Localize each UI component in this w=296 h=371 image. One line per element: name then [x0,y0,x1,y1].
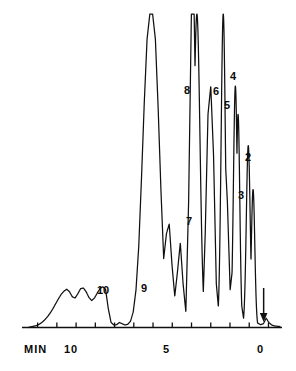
peak-label-2: 2 [245,152,251,163]
x-axis-tick-label-10: 10 [64,344,78,355]
peak-label-9: 9 [141,283,147,294]
injection-arrow-icon [260,288,268,322]
peak-label-5: 5 [224,100,230,111]
detector-signal-trace [28,14,280,328]
peak-label-3: 3 [238,190,244,201]
x-axis-tick-label-0: 0 [257,344,264,355]
peak-label-4: 4 [230,71,236,82]
peak-label-10: 10 [97,285,109,296]
chromatogram-plot-area [0,0,296,371]
peak-label-7: 7 [186,216,192,227]
x-axis-unit-label: MIN [24,344,47,355]
peak-label-8: 8 [184,85,190,96]
x-axis-tick-label-5: 5 [163,344,170,355]
peak-label-6: 6 [213,86,219,97]
chromatogram-figure: 8 6 4 5 2 3 7 9 10 MIN 10 5 0 [0,0,296,371]
